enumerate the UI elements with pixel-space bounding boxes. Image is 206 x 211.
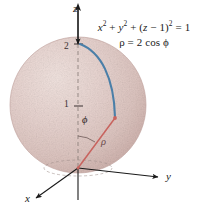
tick-label-2: 2 <box>64 41 69 51</box>
axis-label-y: y <box>166 170 171 182</box>
axis-label-z: z <box>73 2 77 14</box>
equation-block: x2 + y2 + (z − 1)2 = 1 ρ = 2 cos ϕ <box>82 20 206 49</box>
axis-label-x: x <box>25 192 30 204</box>
angle-label-phi: ϕ <box>82 114 87 125</box>
radius-label-rho: ρ <box>101 136 106 147</box>
figure-container: x2 + y2 + (z − 1)2 = 1 ρ = 2 cos ϕ z y x… <box>0 0 206 211</box>
tick-label-1: 1 <box>64 99 69 109</box>
equation-spherical: ρ = 2 cos ϕ <box>82 35 206 50</box>
x-axis <box>36 168 78 198</box>
equation-cartesian: x2 + y2 + (z − 1)2 = 1 <box>82 20 206 35</box>
